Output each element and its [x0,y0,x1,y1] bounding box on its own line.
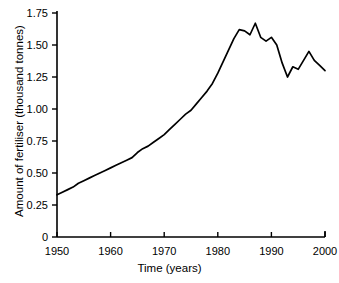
data-series-line [57,23,325,195]
fertiliser-line-chart: 00.250.500.751.001.251.501.75 1950196019… [0,0,339,283]
x-axis-tick-label: 1950 [45,246,69,257]
x-axis-tick-label: 1990 [259,246,283,257]
x-axis-title: Time (years) [0,262,339,274]
y-axis-title: Amount of fertiliser (thousand tonnes) [13,6,25,236]
x-axis-tick-label: 1960 [98,246,122,257]
x-axis-tick-label: 1970 [152,246,176,257]
chart-plot-area [0,0,339,283]
x-axis-tick-label: 2000 [313,246,337,257]
x-axis-tick-label: 1980 [206,246,230,257]
axis-lines [57,11,325,237]
